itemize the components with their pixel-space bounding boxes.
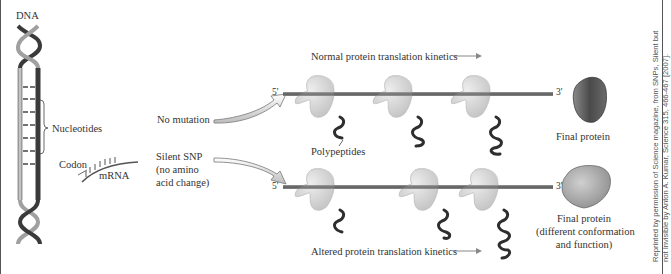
label-normal-kinetics: Normal protein translation kinetics [311, 50, 458, 63]
label-three-prime-top: 3' [556, 86, 562, 99]
image-credit: Reprinted by permission of Science magaz… [651, 31, 671, 262]
final-protein-normal-shape [573, 77, 606, 122]
label-dna: DNA [16, 9, 39, 22]
silent-snp-line1: Silent SNP [156, 150, 209, 163]
label-three-prime-bottom: 3' [556, 180, 562, 193]
label-no-mutation: No mutation [157, 113, 210, 126]
final-protein-altered-line3: and function) [536, 238, 632, 251]
label-codon: Codon [59, 158, 87, 171]
label-five-prime-top: 5' [272, 86, 278, 99]
final-protein-altered-line2: (different conformation [536, 225, 632, 238]
dna-helix [18, 26, 40, 244]
nucleotides-brace [40, 100, 48, 154]
label-final-protein-altered: Final protein (different conformation an… [536, 212, 632, 251]
silent-snp-line2: (no amino [156, 163, 209, 176]
label-five-prime-bottom: 5' [272, 180, 278, 193]
label-altered-kinetics: Altered protein translation kinetics [311, 245, 457, 258]
label-polypeptides: Polypeptides [311, 145, 365, 158]
label-nucleotides: Nucleotides [52, 122, 102, 135]
final-protein-altered-shape [562, 165, 610, 208]
label-silent-snp: Silent SNP (no amino acid change) [156, 150, 209, 189]
silent-snp-line3: acid change) [156, 176, 209, 189]
final-protein-altered-line1: Final protein [536, 212, 632, 225]
label-mrna: mRNA [99, 169, 129, 182]
credit-line1: Reprinted by permission of Science magaz… [651, 31, 661, 262]
label-final-protein-normal: Final protein [556, 130, 610, 143]
credit-line2: not Invisible by Anton A. Kumar, Science… [661, 31, 671, 262]
